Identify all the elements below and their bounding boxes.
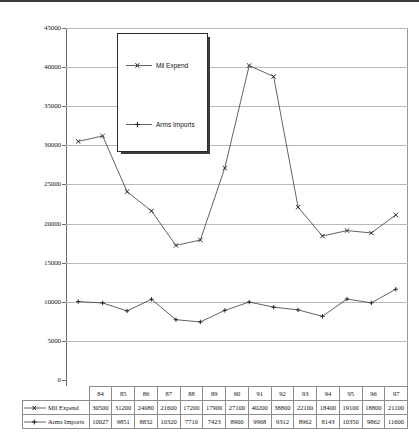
table-cell: 9862 bbox=[362, 415, 385, 429]
plus-marker bbox=[223, 308, 227, 312]
table-row-label-cell: Mil Expend bbox=[23, 401, 90, 415]
y-axis-tick-label: 30000 bbox=[44, 141, 61, 149]
table-column-header: 97 bbox=[385, 387, 408, 401]
table-cell: 8900 bbox=[226, 415, 249, 429]
table-column-header: 89 bbox=[203, 387, 226, 401]
table-cell: 22100 bbox=[294, 401, 317, 415]
chart-figure: Mil Expend Arms Imports 0500010000150002… bbox=[0, 0, 419, 438]
plus-marker bbox=[198, 320, 202, 324]
table-cell: 7423 bbox=[203, 415, 226, 429]
x-marker-icon bbox=[126, 61, 152, 70]
legend-item-arms-imports: Arms Imports bbox=[126, 120, 195, 129]
table-header-row: 8485868788899091929394959697 bbox=[23, 387, 408, 401]
table-cell: 31200 bbox=[112, 401, 135, 415]
y-axis-tick-label: 15000 bbox=[44, 259, 61, 267]
table-cell: 18800 bbox=[362, 401, 385, 415]
plus-marker bbox=[369, 301, 373, 305]
table-column-header: 91 bbox=[248, 387, 271, 401]
legend: Mil Expend Arms Imports bbox=[117, 33, 208, 152]
table-column-header: 93 bbox=[294, 387, 317, 401]
table-cell: 9968 bbox=[248, 415, 271, 429]
table-cell: 18400 bbox=[317, 401, 340, 415]
legend-item-mil-expend: Mil Expend bbox=[126, 61, 188, 70]
table-row: Mil Expend305003120024080216001720017900… bbox=[23, 401, 408, 415]
table-cell: 38800 bbox=[271, 401, 294, 415]
table-cell: 8962 bbox=[294, 415, 317, 429]
table-cell: 10350 bbox=[339, 415, 362, 429]
table-cell: 21600 bbox=[157, 401, 180, 415]
plus-marker-icon bbox=[24, 418, 46, 426]
plus-marker bbox=[394, 287, 398, 291]
table-cell: 30500 bbox=[89, 401, 112, 415]
plus-marker bbox=[296, 308, 300, 312]
table-column-header: 88 bbox=[180, 387, 203, 401]
table-cell: 8832 bbox=[135, 415, 158, 429]
table-column-header: 95 bbox=[339, 387, 362, 401]
table-cell: 27100 bbox=[226, 401, 249, 415]
plot-wrapper: Mil Expend Arms Imports 0500010000150002… bbox=[0, 10, 419, 392]
x-marker bbox=[149, 209, 153, 213]
table-cell: 19100 bbox=[339, 401, 362, 415]
table-cell: 11600 bbox=[385, 415, 408, 429]
y-axis-tick-mark bbox=[62, 28, 66, 29]
table-corner-cell bbox=[23, 387, 90, 401]
y-axis-tick-label: 40000 bbox=[44, 63, 61, 71]
top-rule bbox=[0, 0, 419, 2]
table-row-label: Arms Imports bbox=[48, 418, 84, 425]
x-marker bbox=[394, 213, 398, 217]
table-column-header: 85 bbox=[112, 387, 135, 401]
y-axis-tick-mark bbox=[62, 67, 66, 68]
y-axis-tick-label: 45000 bbox=[44, 24, 61, 32]
table-column-header: 92 bbox=[271, 387, 294, 401]
y-axis-tick-label: 20000 bbox=[44, 220, 61, 228]
y-axis-tick-label: 10000 bbox=[44, 298, 61, 306]
plus-marker bbox=[125, 309, 129, 313]
table-column-header: 87 bbox=[157, 387, 180, 401]
legend-label-arms-imports: Arms Imports bbox=[156, 121, 195, 128]
y-axis-tick-mark bbox=[62, 380, 66, 381]
table-cell: 17900 bbox=[203, 401, 226, 415]
table-cell: 10027 bbox=[89, 415, 112, 429]
y-axis-tick-mark bbox=[62, 224, 66, 225]
plus-marker bbox=[247, 300, 251, 304]
table-cell: 24080 bbox=[135, 401, 158, 415]
y-axis-tick-mark bbox=[62, 184, 66, 185]
data-table: 8485868788899091929394959697 Mil Expend3… bbox=[22, 386, 408, 429]
table-cell: 17200 bbox=[180, 401, 203, 415]
table-column-header: 96 bbox=[362, 387, 385, 401]
y-axis-tick-label: 0 bbox=[58, 376, 61, 384]
y-axis-tick-mark bbox=[62, 302, 66, 303]
table-column-header: 86 bbox=[135, 387, 158, 401]
y-axis-tick-label: 25000 bbox=[44, 180, 61, 188]
x-marker-icon bbox=[24, 404, 46, 412]
table-row-label: Mil Expend bbox=[48, 404, 79, 411]
table-cell: 9851 bbox=[112, 415, 135, 429]
series-line-arms-imports bbox=[78, 289, 396, 322]
plus-marker bbox=[271, 305, 275, 309]
table-row-label-cell: Arms Imports bbox=[23, 415, 90, 429]
y-axis-tick-mark bbox=[62, 145, 66, 146]
table-column-header: 84 bbox=[89, 387, 112, 401]
y-axis-tick-mark bbox=[62, 263, 66, 264]
y-axis-tick-label: 35000 bbox=[44, 102, 61, 110]
legend-label-mil-expend: Mil Expend bbox=[156, 62, 188, 69]
plus-marker-icon bbox=[126, 120, 152, 129]
table-cell: 9312 bbox=[271, 415, 294, 429]
y-axis-tick-mark bbox=[62, 341, 66, 342]
table-body: Mil Expend305003120024080216001720017900… bbox=[23, 401, 408, 429]
table-cell: 7710 bbox=[180, 415, 203, 429]
y-axis-tick-label: 5000 bbox=[47, 337, 61, 345]
table-column-header: 94 bbox=[317, 387, 340, 401]
table-cell: 21100 bbox=[385, 401, 408, 415]
table-row: Arms Imports1002798518832103207710742389… bbox=[23, 415, 408, 429]
table-column-header: 90 bbox=[226, 387, 249, 401]
y-axis-tick-mark bbox=[62, 106, 66, 107]
table-cell: 40200 bbox=[248, 401, 271, 415]
plus-marker bbox=[76, 299, 80, 303]
table-cell: 8143 bbox=[317, 415, 340, 429]
x-marker bbox=[125, 189, 129, 193]
table-cell: 10320 bbox=[157, 415, 180, 429]
plus-marker bbox=[100, 301, 104, 305]
